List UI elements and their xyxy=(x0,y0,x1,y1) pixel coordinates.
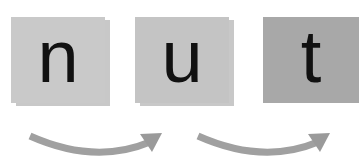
letter-n: n xyxy=(37,20,78,94)
letter-tile-u: u xyxy=(135,17,229,103)
curved-arrow-icon-u-to-t xyxy=(198,133,330,152)
letter-tile-t: t xyxy=(263,17,359,103)
letter-tile-n: n xyxy=(11,17,105,103)
letter-t: t xyxy=(301,20,322,94)
letter-u: u xyxy=(161,20,202,94)
curved-arrow-icon-n-to-u xyxy=(30,133,162,152)
